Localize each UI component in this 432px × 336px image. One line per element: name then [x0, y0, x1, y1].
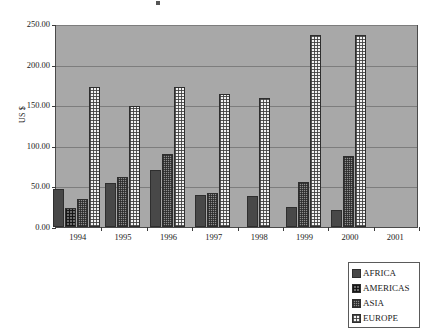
bar-asia-1996 — [162, 154, 173, 227]
legend-label: AMERICAS — [363, 284, 410, 293]
y-tick-mark — [52, 25, 56, 26]
bar-africa-1995 — [105, 183, 116, 227]
y-tick-mark — [52, 147, 56, 148]
bar-europe-1997 — [219, 94, 230, 227]
bar-europe-1994 — [89, 87, 100, 227]
x-tick-mark — [374, 227, 375, 231]
legend-label: ASIA — [363, 299, 384, 308]
legend-item-americas[interactable]: AMERICAS — [352, 281, 417, 296]
y-tick-label: 250.00 — [4, 20, 50, 28]
legend-label: AFRICA — [363, 269, 396, 278]
x-axis-tick-labels: 19941995199619971998199920002001 — [55, 232, 418, 246]
y-tick-label: 0.00 — [4, 223, 50, 231]
bar-europe-1996 — [174, 87, 185, 227]
bar-europe-1999 — [310, 35, 321, 227]
legend-swatch-icon — [352, 314, 361, 323]
bar-africa-1999 — [286, 207, 297, 227]
x-tick-label: 1996 — [146, 232, 191, 242]
legend-swatch-icon — [352, 284, 361, 293]
x-tick-label: 1997 — [191, 232, 236, 242]
legend-item-asia[interactable]: ASIA — [352, 296, 417, 311]
plot-area — [55, 25, 418, 228]
y-tick-mark — [52, 66, 56, 67]
bar-europe-1995 — [129, 106, 140, 227]
bar-asia-1999 — [298, 182, 309, 227]
bar-asia-2000 — [343, 156, 354, 227]
title-remnant — [156, 1, 160, 5]
bar-africa-1997 — [195, 195, 206, 227]
x-tick-label: 1994 — [55, 232, 100, 242]
bar-asia-1994 — [77, 199, 88, 227]
y-tick-mark — [52, 228, 56, 229]
legend-swatch-icon — [352, 269, 361, 278]
x-tick-label: 2000 — [327, 232, 372, 242]
legend-item-africa[interactable]: AFRICA — [352, 266, 417, 281]
gridline — [56, 25, 417, 26]
bar-africa-1996 — [150, 170, 161, 227]
x-tick-mark — [283, 227, 284, 231]
legend-swatch-icon — [352, 299, 361, 308]
chart-legend: AFRICAAMERICASASIAEUROPE — [348, 262, 420, 328]
x-tick-mark — [328, 227, 329, 231]
x-tick-mark — [238, 227, 239, 231]
bar-chart: US $ 0.0050.00100.00150.00200.00250.00 1… — [0, 0, 432, 336]
x-tick-mark — [147, 227, 148, 231]
y-tick-mark — [52, 106, 56, 107]
y-axis-tick-labels: 0.0050.00100.00150.00200.00250.00 — [0, 0, 50, 336]
x-tick-mark — [192, 227, 193, 231]
bar-europe-2000 — [355, 35, 366, 227]
y-tick-label: 100.00 — [4, 142, 50, 150]
bar-europe-1998 — [259, 98, 270, 227]
y-tick-label: 50.00 — [4, 182, 50, 190]
x-tick-label: 1999 — [282, 232, 327, 242]
bar-americas-1994 — [65, 208, 76, 227]
bar-africa-1998 — [247, 196, 258, 227]
bar-africa-1994 — [53, 189, 64, 227]
x-tick-label: 1998 — [237, 232, 282, 242]
y-tick-label: 150.00 — [4, 101, 50, 109]
bar-africa-2000 — [331, 210, 342, 227]
x-tick-label: 2001 — [373, 232, 418, 242]
bar-asia-1995 — [117, 177, 128, 227]
x-tick-mark — [419, 227, 420, 231]
legend-item-europe[interactable]: EUROPE — [352, 311, 417, 326]
x-tick-label: 1995 — [100, 232, 145, 242]
y-tick-label: 200.00 — [4, 61, 50, 69]
legend-label: EUROPE — [363, 314, 398, 323]
bar-asia-1997 — [207, 193, 218, 227]
x-tick-mark — [101, 227, 102, 231]
